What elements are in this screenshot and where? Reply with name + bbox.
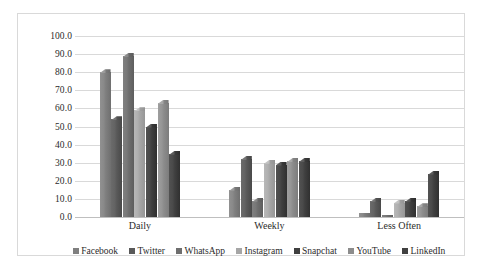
bar-face <box>134 110 145 217</box>
bar-top-highlight <box>299 158 310 162</box>
chart-frame: 100.090.080.070.060.050.040.030.020.010.… <box>17 13 465 256</box>
y-tick-label: 90.0 <box>35 49 72 59</box>
y-axis: 100.090.080.070.060.050.040.030.020.010.… <box>35 28 72 225</box>
legend-swatch-icon <box>294 248 300 254</box>
bar-whatsapp-daily <box>123 56 134 217</box>
bar-face <box>428 174 439 217</box>
bar-face <box>123 56 134 217</box>
bar-group-weekly <box>205 36 335 217</box>
bar-linkedin-daily <box>169 154 180 217</box>
bar-instagram-weekly <box>264 163 275 217</box>
y-tick-label: 60.0 <box>35 103 72 113</box>
bar-youtube-weekly <box>287 161 298 217</box>
y-tick-label: 70.0 <box>35 85 72 95</box>
bar-instagram-daily <box>134 110 145 217</box>
bar-top-highlight <box>252 198 263 202</box>
legend-swatch-icon <box>236 248 242 254</box>
y-tick-label: 20.0 <box>35 176 72 186</box>
chart-legend: FacebookTwitterWhatsAppInstagramSnapchat… <box>35 242 483 260</box>
bar-whatsapp-less-often <box>382 215 393 217</box>
legend-swatch-icon <box>348 248 354 254</box>
bar-top-highlight <box>428 171 439 175</box>
bar-face <box>252 201 263 217</box>
legend-item-twitter[interactable]: Twitter <box>129 246 165 257</box>
bar-youtube-daily <box>158 103 169 217</box>
bar-twitter-less-often <box>370 201 381 217</box>
legend-label: Facebook <box>81 246 118 257</box>
bar-linkedin-less-often <box>428 174 439 217</box>
bar-snapchat-weekly <box>276 165 287 217</box>
bar-top-highlight <box>264 160 275 164</box>
bar-top-highlight <box>229 187 240 191</box>
bar-top-highlight <box>111 116 122 120</box>
bar-face <box>394 203 405 217</box>
bar-top-highlight <box>287 158 298 162</box>
legend-swatch-icon <box>176 248 182 254</box>
bar-top-highlight <box>123 53 134 57</box>
bar-face <box>264 163 275 217</box>
legend-swatch-icon <box>129 248 135 254</box>
bar-top-highlight <box>169 151 180 155</box>
legend-label: Twitter <box>138 246 165 257</box>
legend-item-instagram[interactable]: Instagram <box>236 246 283 257</box>
legend-item-youtube[interactable]: YouTube <box>348 246 391 257</box>
bars-layer <box>75 36 464 217</box>
bar-top-highlight <box>276 162 287 166</box>
y-tick-label: 100.0 <box>35 31 72 41</box>
legend-label: YouTube <box>356 246 391 257</box>
bar-face <box>169 154 180 217</box>
bar-whatsapp-weekly <box>252 201 263 217</box>
chart-figure: 100.090.080.070.060.050.040.030.020.010.… <box>0 0 492 271</box>
bar-face <box>276 165 287 217</box>
y-tick-label: 40.0 <box>35 140 72 150</box>
bar-top-highlight <box>146 124 157 128</box>
bar-face <box>158 103 169 217</box>
legend-swatch-icon <box>402 248 408 254</box>
bar-group-less-often <box>334 36 464 217</box>
bar-face <box>229 190 240 217</box>
bar-face <box>417 206 428 217</box>
y-tick-label: 30.0 <box>35 158 72 168</box>
bar-top-highlight <box>370 198 381 202</box>
bar-facebook-less-often <box>359 213 370 217</box>
bar-top-highlight <box>100 69 111 73</box>
bar-youtube-less-often <box>417 206 428 217</box>
bar-face <box>146 127 157 218</box>
bar-face <box>299 161 310 217</box>
bar-snapchat-less-often <box>405 201 416 217</box>
legend-item-snapchat[interactable]: Snapchat <box>294 246 337 257</box>
bar-twitter-weekly <box>241 159 252 217</box>
bar-facebook-weekly <box>229 190 240 217</box>
legend-label: LinkedIn <box>411 246 446 257</box>
legend-item-whatsapp[interactable]: WhatsApp <box>176 246 225 257</box>
bar-face <box>241 159 252 217</box>
x-axis: DailyWeeklyLess Often <box>75 219 464 235</box>
bar-face <box>287 161 298 217</box>
bar-face <box>370 201 381 217</box>
bar-facebook-daily <box>100 72 111 217</box>
x-tick-label-less-often: Less Often <box>334 219 464 233</box>
bar-face <box>405 201 416 217</box>
legend-item-linkedin[interactable]: LinkedIn <box>402 246 445 257</box>
gridline-0 <box>75 217 464 218</box>
legend-item-facebook[interactable]: Facebook <box>73 246 118 257</box>
bar-snapchat-daily <box>146 127 157 218</box>
bar-face <box>100 72 111 217</box>
x-tick-label-weekly: Weekly <box>205 219 335 233</box>
bar-face <box>382 215 393 217</box>
legend-swatch-icon <box>73 248 79 254</box>
bar-top-highlight <box>417 203 428 207</box>
bar-group-daily <box>75 36 205 217</box>
y-tick-label: 0.0 <box>35 212 72 222</box>
bar-top-highlight <box>241 156 252 160</box>
bar-top-highlight <box>134 107 145 111</box>
bar-top-highlight <box>405 198 416 202</box>
bar-linkedin-weekly <box>299 161 310 217</box>
bar-instagram-less-often <box>394 203 405 217</box>
y-tick-label: 80.0 <box>35 67 72 77</box>
legend-label: Instagram <box>245 246 283 257</box>
y-tick-label: 50.0 <box>35 122 72 132</box>
bar-twitter-daily <box>111 119 122 217</box>
bar-top-highlight <box>394 200 405 204</box>
bar-face <box>359 213 370 217</box>
